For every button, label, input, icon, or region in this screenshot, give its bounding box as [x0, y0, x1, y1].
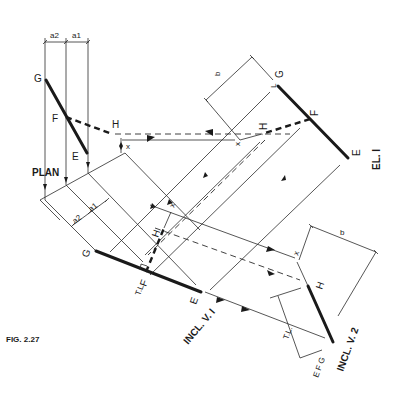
incl-v2-b-dimension: [299, 224, 378, 316]
incl-v2-label-h: H: [314, 280, 327, 291]
incl-v2-label-efg: E F G: [311, 356, 327, 379]
el1-label-h: H: [258, 123, 269, 130]
label-a1-top: a1: [72, 31, 81, 40]
incl-v1-label-e: E: [188, 295, 201, 305]
plan-label-x: x: [126, 142, 130, 151]
figure-caption: FIG. 2.27: [6, 335, 40, 344]
view-label-plan: PLAN: [32, 167, 59, 178]
el1-label-l: L: [269, 83, 278, 88]
el1-label-e: E: [351, 149, 362, 156]
plan-label-f: F: [52, 113, 58, 124]
label-a1-lower: a1: [87, 201, 100, 214]
incl-v2-label-tl: T.L.: [281, 325, 294, 340]
view-label-el1: EL. I: [371, 149, 382, 170]
incl-v1-label-g: G: [80, 247, 93, 258]
view-label-incl-v2: INCL. V. 2: [335, 326, 361, 373]
descriptive-geometry-drawing: a2 a1 G F E H x PLAN a2 a1 G L F H x E E…: [0, 0, 400, 396]
incl-v2-label-x: x: [291, 250, 301, 257]
el1-label-g: G: [274, 70, 285, 78]
el1-label-x: x: [233, 142, 242, 146]
plan-label-h: H: [112, 119, 119, 130]
el1-line-fh: [262, 119, 310, 134]
el1-label-b: b: [213, 71, 222, 76]
diagram-canvas: a2 a1 G F E H x PLAN a2 a1 G L F H x E E…: [0, 0, 400, 396]
el1-label-f: F: [309, 110, 320, 116]
plan-label-e: E: [72, 151, 79, 162]
label-a2-lower: a2: [71, 213, 84, 226]
incl-v2-label-b: b: [340, 228, 345, 237]
el1-line-gfe: [278, 86, 348, 158]
plan-label-g: G: [34, 73, 42, 84]
view-label-incl-v1: INCL. V. I: [181, 306, 217, 346]
incl-v2-line-h-efg: [308, 286, 333, 342]
label-a2-top: a2: [50, 31, 59, 40]
